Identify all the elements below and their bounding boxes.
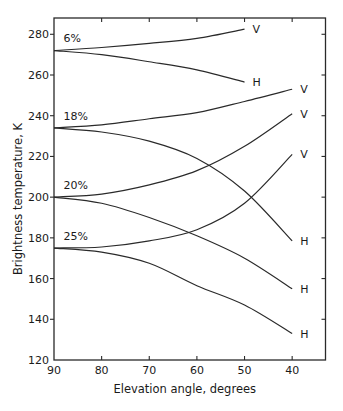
series-labels: VHVHVHVH6%18%20%25% — [64, 23, 309, 340]
curve-20pct-h — [54, 197, 292, 289]
group-label-20pct: 20% — [64, 179, 88, 192]
end-label-6pct-h: H — [253, 76, 261, 89]
end-label-20pct-v: V — [300, 108, 308, 121]
x-tick-label: 80 — [95, 364, 109, 377]
curve-18pct-v — [54, 89, 292, 128]
curve-18pct-h — [54, 128, 292, 241]
curve-6pct-v — [54, 29, 245, 50]
group-label-25pct: 25% — [64, 230, 88, 243]
y-tick-label: 180 — [28, 232, 49, 245]
group-label-18pct: 18% — [64, 110, 88, 123]
x-axis-title: Elevation angle, degrees — [113, 382, 256, 396]
y-tick-label: 220 — [28, 150, 49, 163]
end-label-20pct-h: H — [300, 283, 308, 296]
x-tick-label: 40 — [285, 364, 299, 377]
end-label-25pct-h: H — [300, 328, 308, 341]
y-axis-title: Brightness temperature, K — [11, 123, 25, 276]
end-label-18pct-v: V — [300, 83, 308, 96]
end-label-18pct-h: H — [300, 235, 308, 248]
end-label-6pct-v: V — [253, 23, 261, 36]
x-tick-label: 50 — [238, 364, 252, 377]
brightness-temperature-chart: 908070605040120140160180200220240260280 … — [0, 0, 343, 411]
curve-6pct-h — [54, 51, 245, 83]
x-tick-label: 90 — [47, 364, 61, 377]
x-tick-label: 60 — [190, 364, 204, 377]
group-label-6pct: 6% — [64, 32, 81, 45]
end-label-25pct-v: V — [300, 148, 308, 161]
y-tick-label: 160 — [28, 273, 49, 286]
y-tick-label: 120 — [28, 354, 49, 367]
plot-frame — [54, 18, 326, 360]
x-tick-label: 70 — [142, 364, 156, 377]
axis-ticks — [50, 18, 326, 360]
data-curves — [54, 29, 292, 333]
y-tick-label: 280 — [28, 28, 49, 41]
y-tick-label: 140 — [28, 313, 49, 326]
curve-25pct-h — [54, 248, 292, 333]
y-tick-label: 200 — [28, 191, 49, 204]
y-tick-label: 240 — [28, 110, 49, 123]
y-tick-label: 260 — [28, 69, 49, 82]
